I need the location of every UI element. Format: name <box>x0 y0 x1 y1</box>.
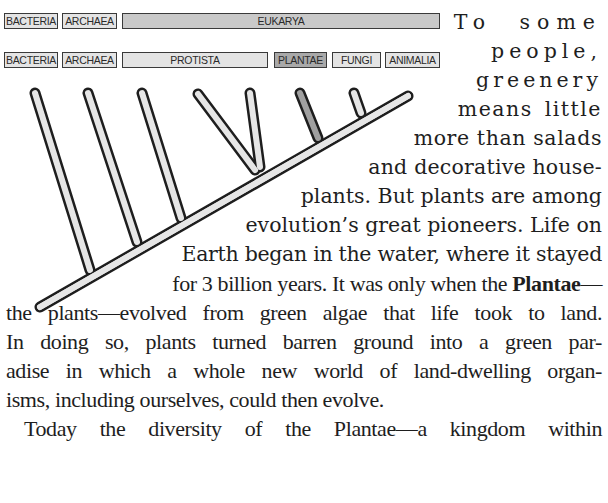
text-line-7: plants. But plants are among <box>301 182 602 211</box>
text-line-1: To some <box>454 8 602 37</box>
text-line-10: for 3 billion years. It was only when th… <box>172 269 602 298</box>
text-line-15: Today the diversity of the Plantae—a kin… <box>24 414 602 443</box>
text-line-11: the plants—evolved from green algae that… <box>6 298 602 327</box>
text-line-4: means little <box>458 95 602 124</box>
text-line-9: Earth began in the water, where it staye… <box>181 240 602 269</box>
text-line-2: people, <box>491 37 602 66</box>
em-dash: — <box>580 271 602 296</box>
text-line-13: adise in which a whole new world of land… <box>6 356 602 385</box>
text-line-10-lead: for 3 billion years. It was only when th… <box>172 271 507 296</box>
text-line-14: isms, including ourselves, could then ev… <box>6 385 384 414</box>
text-line-12: In doing so, plants turned barren ground… <box>6 327 602 356</box>
article-body: To some people, greenery means little mo… <box>0 0 608 503</box>
text-line-8: evolution’s great pioneers. Life on <box>245 211 602 240</box>
plantae-term: Plantae <box>512 271 580 296</box>
text-line-5: more than salads <box>414 124 602 153</box>
text-line-6: and decorative house- <box>368 153 602 182</box>
text-line-3: greenery <box>476 66 602 95</box>
